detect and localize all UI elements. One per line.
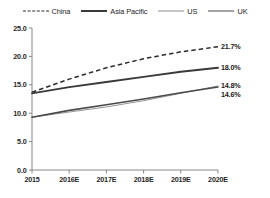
x-axis: 20152016E2017E2018E2019E2020E — [24, 170, 228, 182]
legend-label-uk: UK — [237, 7, 247, 16]
x-tick-label: 2015 — [24, 175, 39, 182]
series-group — [32, 47, 218, 117]
legend-item-asia-pacific[interactable]: Asia Pacific — [81, 7, 147, 16]
series-line-china — [32, 47, 218, 92]
legend-swatch-us-line-icon — [158, 8, 184, 15]
plot-area: 0.05.010.015.020.025.0 20152016E2017E201… — [0, 22, 270, 182]
legend-label-us: US — [187, 7, 197, 16]
y-tick-label: 10.0 — [13, 109, 26, 118]
y-tick-label: 15.0 — [13, 80, 26, 89]
chart-figure: China Asia Pacific US UK 0.05.010.015.02… — [0, 0, 270, 198]
end-label-group: 21.7%18.0%14.8%14.6% — [221, 42, 241, 99]
series-line-uk — [32, 87, 218, 117]
y-tick-label: 5.0 — [17, 137, 27, 146]
end-label-uk: 14.6% — [221, 90, 241, 99]
legend-swatch-uk-line-icon — [208, 8, 234, 15]
legend-label-china: China — [52, 7, 71, 16]
y-tick-label: 25.0 — [13, 24, 26, 33]
x-tick-label: 2018E — [134, 175, 154, 182]
x-tick-label: 2019E — [171, 175, 191, 182]
chart-legend: China Asia Pacific US UK — [0, 3, 270, 19]
end-label-china: 21.7% — [221, 42, 241, 51]
legend-item-china[interactable]: China — [23, 7, 71, 16]
y-tick-label: 0.0 — [17, 166, 27, 175]
legend-item-uk[interactable]: UK — [208, 7, 247, 16]
x-tick-group: 20152016E2017E2018E2019E2020E — [24, 170, 228, 182]
x-tick-label: 2016E — [59, 175, 79, 182]
legend-item-us[interactable]: US — [158, 7, 197, 16]
series-line-asia-pacific — [32, 68, 218, 94]
legend-swatch-asia-pacific-line-icon — [81, 8, 107, 15]
legend-label-asia-pacific: Asia Pacific — [110, 7, 147, 16]
legend-swatch-china-dashed-line-icon — [23, 8, 49, 15]
y-tick-group: 0.05.010.015.020.025.0 — [13, 24, 32, 175]
chart-svg: 0.05.010.015.020.025.0 20152016E2017E201… — [0, 22, 270, 182]
end-label-asia-pacific: 18.0% — [221, 63, 241, 72]
y-tick-label: 20.0 — [13, 52, 26, 61]
y-axis: 0.05.010.015.020.025.0 — [13, 24, 32, 175]
figure-caption — [6, 190, 256, 198]
x-tick-label: 2017E — [97, 175, 117, 182]
x-tick-label: 2020E — [208, 175, 228, 182]
